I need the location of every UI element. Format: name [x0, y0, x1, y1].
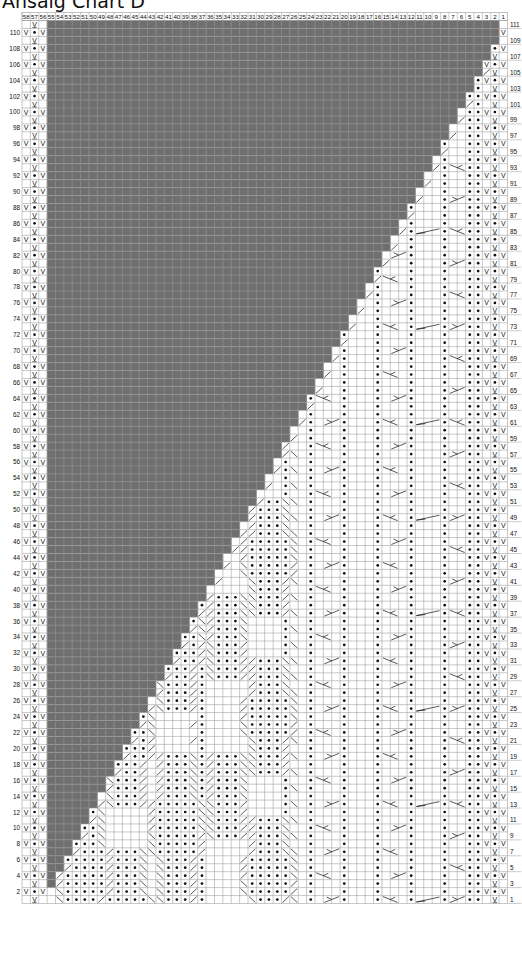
purl-symbol — [134, 755, 137, 758]
purl-symbol — [259, 819, 262, 822]
k2tog-symbol — [249, 523, 255, 529]
purl-symbol — [410, 222, 413, 225]
ssk-symbol — [207, 833, 213, 839]
row-number-right: 55 — [510, 466, 518, 473]
purl-symbol — [276, 604, 279, 607]
purl-symbol — [142, 739, 145, 742]
purl-symbol — [477, 182, 480, 185]
ssk-symbol — [241, 889, 247, 895]
slip-symbol: V — [24, 618, 29, 625]
slip-wyif-symbol: V — [493, 244, 498, 251]
purl-symbol — [443, 461, 446, 464]
purl-symbol — [309, 397, 312, 400]
purl-symbol — [217, 763, 220, 766]
purl-symbol — [410, 357, 413, 360]
purl-symbol — [276, 858, 279, 861]
purl-symbol — [33, 842, 36, 845]
purl-symbol — [33, 811, 36, 814]
purl-symbol — [276, 683, 279, 686]
purl-symbol — [468, 349, 471, 352]
purl-symbol — [226, 652, 229, 655]
slip-symbol: V — [41, 474, 46, 481]
slip-wyif-symbol: V — [493, 594, 498, 601]
purl-symbol — [443, 882, 446, 885]
k2tog-symbol — [249, 658, 255, 664]
purl-symbol — [309, 731, 312, 734]
purl-symbol — [443, 214, 446, 217]
purl-symbol — [443, 500, 446, 503]
slip-wyif-symbol: V — [32, 403, 37, 410]
column-number: 7 — [451, 13, 455, 20]
k2tog-symbol — [199, 841, 205, 847]
purl-symbol — [251, 572, 254, 575]
purl-symbol — [410, 445, 413, 448]
row-number-left: 22 — [13, 729, 21, 736]
purl-symbol — [443, 874, 446, 877]
purl-symbol — [468, 508, 471, 511]
purl-symbol — [83, 882, 86, 885]
ssk-symbol — [149, 729, 155, 735]
purl-symbol — [410, 516, 413, 519]
slip-symbol: V — [24, 188, 29, 195]
purl-symbol — [410, 254, 413, 257]
purl-symbol — [284, 779, 287, 782]
purl-symbol — [468, 485, 471, 488]
slip-wyif-symbol: V — [32, 85, 37, 92]
purl-symbol — [276, 699, 279, 702]
slip-symbol: V — [484, 61, 489, 68]
purl-symbol — [443, 421, 446, 424]
slip-symbol: V — [24, 124, 29, 131]
purl-symbol — [284, 699, 287, 702]
slip-wyif-symbol: V — [493, 785, 498, 792]
purl-symbol — [494, 827, 497, 830]
purl-symbol — [376, 858, 379, 861]
purl-symbol — [201, 763, 204, 766]
purl-symbol — [494, 795, 497, 798]
slip-symbol: V — [484, 602, 489, 609]
row-number-right: 77 — [510, 291, 518, 298]
k2tog-symbol — [107, 873, 113, 879]
purl-symbol — [468, 206, 471, 209]
row-number-right: 49 — [510, 514, 518, 521]
slip-symbol: V — [484, 729, 489, 736]
purl-symbol — [477, 278, 480, 281]
purl-symbol — [201, 723, 204, 726]
purl-symbol — [226, 636, 229, 639]
purl-symbol — [343, 691, 346, 694]
purl-symbol — [477, 421, 480, 424]
purl-symbol — [410, 302, 413, 305]
purl-symbol — [443, 222, 446, 225]
purl-symbol — [159, 811, 162, 814]
purl-symbol — [142, 898, 145, 901]
purl-symbol — [477, 731, 480, 734]
purl-symbol — [410, 683, 413, 686]
purl-symbol — [468, 604, 471, 607]
column-number: 54 — [56, 13, 63, 20]
purl-symbol — [410, 421, 413, 424]
purl-symbol — [410, 286, 413, 289]
purl-symbol — [477, 675, 480, 678]
slip-symbol: V — [41, 315, 46, 322]
row-number-right: 15 — [510, 785, 518, 792]
purl-symbol — [125, 763, 128, 766]
purl-symbol — [167, 874, 170, 877]
purl-symbol — [443, 206, 446, 209]
k2tog-symbol — [433, 165, 439, 171]
purl-symbol — [443, 779, 446, 782]
purl-symbol — [268, 731, 271, 734]
k2tog-symbol — [199, 658, 205, 664]
ssk-symbol — [291, 833, 297, 839]
purl-symbol — [33, 111, 36, 114]
purl-symbol — [410, 246, 413, 249]
no-stitch-cells — [47, 402, 306, 410]
slip-symbol: V — [484, 554, 489, 561]
row-number-right: 85 — [510, 228, 518, 235]
purl-symbol — [33, 429, 36, 432]
k2tog-symbol — [282, 578, 288, 584]
slip-symbol: V — [484, 856, 489, 863]
purl-symbol — [276, 508, 279, 511]
slip-symbol: V — [24, 856, 29, 863]
purl-symbol — [276, 524, 279, 527]
purl-symbol — [410, 588, 413, 591]
k2tog-symbol — [56, 881, 62, 887]
